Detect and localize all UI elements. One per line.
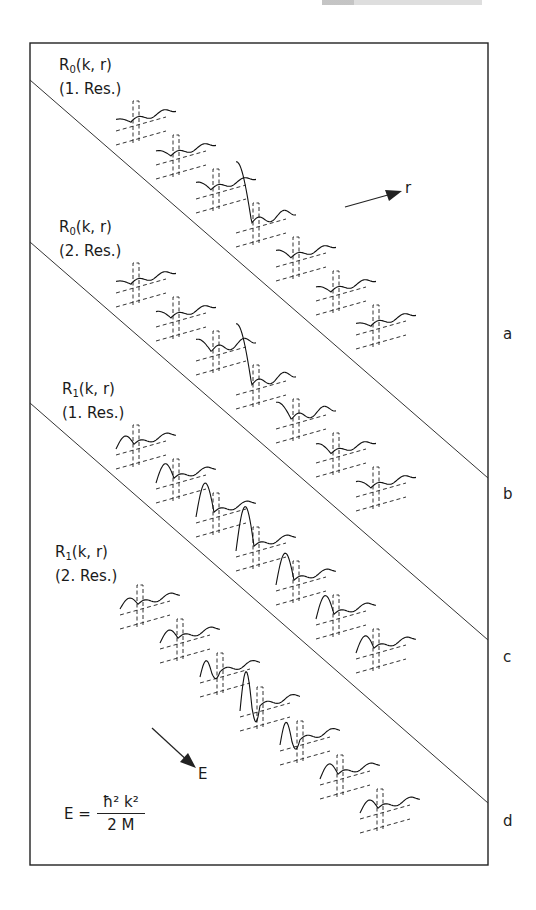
panel-a-resonance: (1. Res.): [59, 82, 121, 97]
wavefunction-curve: [356, 629, 416, 673]
panel-b-resonance: (2. Res.): [59, 244, 121, 259]
baseline-dashed: [360, 805, 410, 819]
panel-c-curves: [116, 425, 416, 673]
wavefunction-curve: [360, 789, 420, 833]
potential-well: [173, 297, 179, 339]
baseline-dashed: [320, 771, 370, 785]
baseline-dashed: [120, 601, 170, 615]
wavefunction-line: [356, 314, 416, 327]
panel-a-title: R0(k, r): [59, 58, 112, 75]
potential-well: [217, 653, 223, 695]
baseline-dashed: [236, 557, 286, 571]
wavefunction-curve: [276, 237, 336, 281]
potential-well: [173, 459, 179, 501]
wavefunction-curve: [156, 459, 216, 503]
formula-denominator: 2 M: [107, 814, 134, 834]
potential-well: [293, 237, 299, 279]
wavefunction-curves: [116, 101, 420, 833]
panel-b-title: R0(k, r): [59, 220, 112, 237]
baseline-dashed: [280, 751, 330, 765]
baseline-dashed: [356, 645, 406, 659]
baseline-dashed: [240, 703, 290, 717]
potential-well: [333, 433, 339, 475]
baseline-dashed: [316, 611, 366, 625]
baseline-dashed: [240, 717, 290, 731]
baseline-dashed: [116, 455, 166, 469]
baseline-dashed: [356, 483, 406, 497]
baseline-dashed: [276, 591, 326, 605]
baseline-dashed: [196, 185, 246, 199]
figure-canvas: [0, 0, 536, 910]
baseline-dashed: [156, 475, 206, 489]
baseline-dashed: [320, 785, 370, 799]
wavefunction-line: [196, 338, 256, 351]
wavefunction-curve: [356, 467, 416, 511]
wavefunction-curve: [356, 305, 416, 349]
baseline-dashed: [316, 449, 366, 463]
baseline-dashed: [160, 649, 210, 663]
potential-well: [333, 271, 339, 313]
wavefunction-curve: [160, 619, 220, 663]
formula-numerator: ħ² k²: [97, 793, 145, 814]
potential-well: [137, 585, 143, 627]
wavefunction-curve: [156, 297, 216, 341]
wavefunction-curve: [240, 672, 300, 731]
band-label-d: d: [503, 812, 513, 830]
panel-d-title: R1(k, r): [55, 545, 108, 562]
potential-well: [377, 789, 383, 831]
baseline-dashed: [356, 659, 406, 673]
baseline-dashed: [356, 335, 406, 349]
potential-well: [173, 135, 179, 177]
baseline-dashed: [156, 165, 206, 179]
energy-formula: E = ħ² k² 2 M: [64, 793, 145, 834]
baseline-dashed: [276, 429, 326, 443]
potential-well: [373, 629, 379, 671]
potential-well: [373, 467, 379, 509]
baseline-dashed: [356, 497, 406, 511]
wavefunction-line: [316, 280, 376, 292]
wavefunction-curve: [236, 162, 296, 247]
wavefunction-curve: [196, 331, 256, 375]
band-label-c: c: [503, 648, 511, 666]
wavefunction-curve: [120, 585, 180, 629]
potential-well: [133, 101, 139, 143]
figure-frame: [30, 43, 488, 865]
panel-d-curves: [120, 585, 420, 833]
wavefunction-line: [236, 162, 296, 223]
baseline-dashed: [156, 151, 206, 165]
baseline-dashed: [236, 219, 286, 233]
wavefunction-curve: [316, 595, 376, 639]
panel-d-resonance: (2. Res.): [55, 569, 117, 584]
baseline-dashed: [116, 293, 166, 307]
wavefunction-curve: [276, 399, 336, 443]
wavefunction-curve: [236, 507, 296, 571]
potential-well: [133, 263, 139, 305]
wavefunction-curve: [156, 135, 216, 179]
baseline-dashed: [116, 441, 166, 455]
baseline-dashed: [276, 267, 326, 281]
potential-well: [293, 561, 299, 603]
baseline-dashed: [236, 543, 286, 557]
band-label-b: b: [503, 485, 513, 503]
wavefunction-curve: [196, 169, 256, 213]
wavefunction-curve: [280, 721, 340, 765]
potential-well: [253, 203, 259, 245]
wavefunction-line: [116, 110, 176, 123]
baseline-dashed: [160, 635, 210, 649]
potential-well: [373, 305, 379, 347]
E-axis-arrow: [152, 728, 196, 768]
baseline-dashed: [156, 313, 206, 327]
wavefunction-curve: [116, 425, 176, 469]
baseline-dashed: [236, 381, 286, 395]
baseline-dashed: [316, 301, 366, 315]
baseline-dashed: [236, 233, 286, 247]
baseline-dashed: [316, 287, 366, 301]
formula-fraction: ħ² k² 2 M: [97, 793, 145, 834]
E-axis-label: E: [198, 767, 207, 782]
potential-well: [253, 527, 259, 569]
wavefunction-line: [196, 483, 256, 517]
wavefunction-line: [156, 144, 216, 156]
potential-well: [297, 721, 303, 763]
baseline-dashed: [276, 415, 326, 429]
potential-well: [293, 399, 299, 441]
